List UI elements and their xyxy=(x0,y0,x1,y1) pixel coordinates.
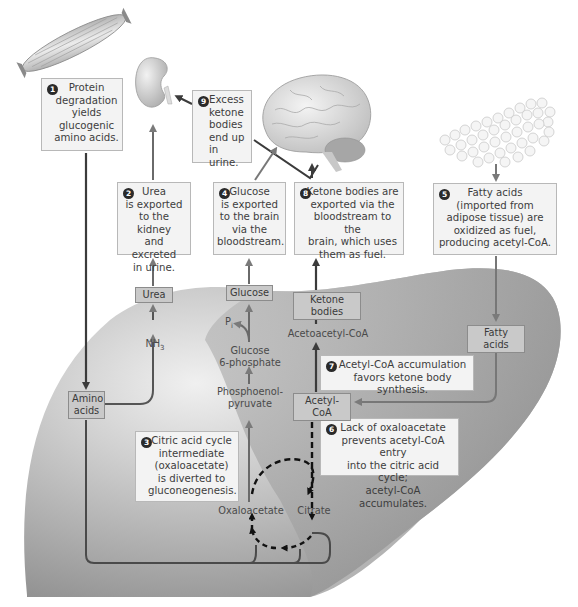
tag-glucose: Glucose xyxy=(226,285,273,301)
kidney-icon xyxy=(136,58,172,107)
step-badge: 7 xyxy=(326,361,337,372)
callout-text: Acetyl-CoA accumulation favors ketone bo… xyxy=(335,359,470,397)
callout-step-3: 3 Citric acid cycle intermediate (oxaloa… xyxy=(135,431,239,502)
step-badge: 8 xyxy=(300,188,311,199)
callout-text: Citric acid cycle intermediate (oxaloace… xyxy=(148,435,235,498)
tag-amino-acids: Amino acids xyxy=(68,391,105,419)
callout-step-5: 5 Fatty acids (imported from adipose tis… xyxy=(433,183,557,255)
callout-text: Ketone bodies are exported via the blood… xyxy=(305,186,400,262)
callout-text: Urea is exported to the kidney and excre… xyxy=(121,186,187,274)
adipose-icon xyxy=(440,98,555,167)
callout-step-6: 6 Lack of oxaloacetate prevents acetyl-C… xyxy=(320,418,459,476)
label-citrate: Citrate xyxy=(292,505,336,517)
step-badge: 1 xyxy=(47,84,58,95)
callout-text: Lack of oxaloacetate prevents acetyl-CoA… xyxy=(331,422,455,510)
callout-step-9: 9 Excess ketone bodies end up in urine. xyxy=(192,90,252,163)
label-acetoacetyl-coa: Acetoacetyl-CoA xyxy=(278,328,378,340)
tag-acetyl-coa: Acetyl-CoA xyxy=(293,393,351,421)
nh3-subscript: 3 xyxy=(160,344,164,352)
step-badge: 4 xyxy=(219,188,230,199)
label-oxaloacetate: Oxaloacetate xyxy=(216,505,286,517)
tag-fatty-acids: Fatty acids xyxy=(467,325,525,353)
label-nh3: NH3 xyxy=(140,338,170,354)
callout-text: Excess ketone bodies end up in urine. xyxy=(209,94,248,170)
callout-step-7: 7 Acetyl-CoA accumulation favors ketone … xyxy=(320,355,474,391)
callout-step-1: 1 Protein degradation yields glucogenic … xyxy=(41,78,123,151)
label-glucose-6-phosphate: Glucose 6-phosphate xyxy=(212,345,288,369)
step-badge: 2 xyxy=(123,188,134,199)
callout-step-4: 4 Glucose is exported to the brain via t… xyxy=(213,182,286,255)
tag-ketone-bodies: Ketone bodies xyxy=(293,292,361,320)
callout-step-2: 2 Urea is exported to the kidney and exc… xyxy=(117,182,191,255)
step-badge: 9 xyxy=(198,96,209,107)
callout-step-8: 8 Ketone bodies are exported via the blo… xyxy=(294,182,404,255)
nh3-text: NH xyxy=(145,338,160,349)
pi-subscript: i xyxy=(231,322,233,330)
muscle-icon xyxy=(15,5,133,81)
ketone-body-diagram: 1 Protein degradation yields glucogenic … xyxy=(0,0,578,607)
step-badge: 5 xyxy=(439,189,450,200)
label-phosphoenolpyruvate: Phosphoenol- pyruvate xyxy=(208,386,292,410)
tag-urea: Urea xyxy=(135,287,173,303)
label-pi: Pi xyxy=(222,316,236,332)
step-badge: 3 xyxy=(141,437,152,448)
callout-text: Protein degradation yields glucogenic am… xyxy=(54,82,119,145)
step-badge: 6 xyxy=(326,424,337,435)
callout-text: Fatty acids (imported from adipose tissu… xyxy=(437,187,553,250)
